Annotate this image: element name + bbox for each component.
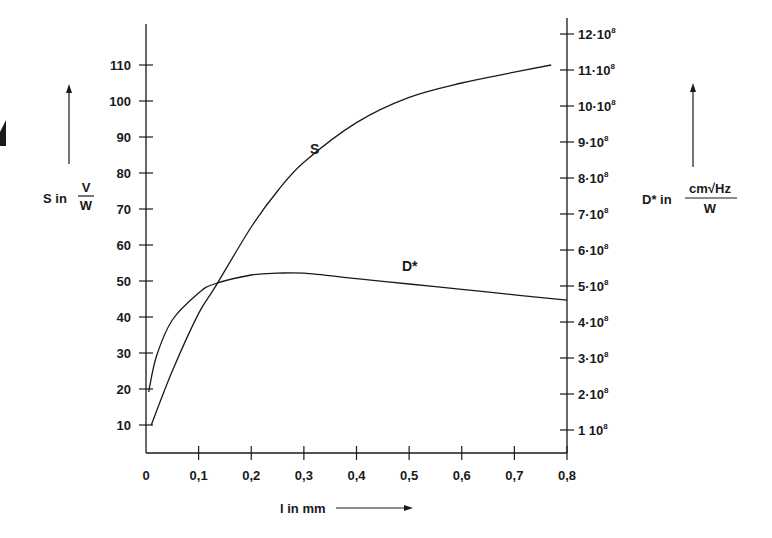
left-tick-label: 70 bbox=[117, 202, 131, 217]
s-unit-numerator: V bbox=[82, 180, 91, 195]
right-tick-label: 9·108 bbox=[578, 134, 609, 150]
x-tick-label: 0,2 bbox=[242, 468, 260, 483]
right-tick-label: 5·108 bbox=[578, 278, 609, 294]
x-tick-label: 0,5 bbox=[400, 468, 418, 483]
right-tick-label: 2·108 bbox=[578, 386, 609, 402]
right-axis-label: D* in cm√Hz W bbox=[642, 83, 737, 216]
left-tick-label: 20 bbox=[117, 382, 131, 397]
scan-artifact bbox=[0, 120, 6, 146]
x-tick-label: 0,6 bbox=[453, 468, 471, 483]
curve-s bbox=[151, 65, 551, 425]
curves bbox=[149, 65, 567, 425]
left-axis-label: S in V W bbox=[43, 84, 94, 213]
curve-label-s: S bbox=[310, 141, 319, 157]
arrowhead-icon bbox=[690, 83, 696, 92]
x-axis-title: l in mm bbox=[280, 501, 326, 516]
arrowhead-icon bbox=[66, 84, 72, 93]
right-tick-label: 12·108 bbox=[578, 26, 616, 42]
right-tick-label: 3·108 bbox=[578, 350, 609, 366]
left-tick-label: 40 bbox=[117, 310, 131, 325]
left-tick-label: 100 bbox=[109, 94, 131, 109]
right-tick-label: 1 108 bbox=[578, 422, 608, 438]
x-tick-label: 0,3 bbox=[295, 468, 313, 483]
d-axis-prefix: D* in bbox=[642, 192, 672, 207]
x-tick-label: 0,1 bbox=[190, 468, 208, 483]
left-tick-label: 50 bbox=[117, 274, 131, 289]
right-tick-label: 7·108 bbox=[578, 206, 609, 222]
left-tick-label: 10 bbox=[117, 418, 131, 433]
right-tick-label: 11·108 bbox=[578, 62, 616, 78]
x-ticks: 00,10,20,30,40,50,60,70,8 bbox=[142, 446, 576, 483]
x-axis-label: l in mm bbox=[280, 501, 413, 516]
left-tick-label: 110 bbox=[110, 58, 131, 73]
x-tick-label: 0,7 bbox=[505, 468, 523, 483]
d-unit-numerator: cm√Hz bbox=[689, 181, 731, 196]
curve-label-dstar: D* bbox=[402, 258, 418, 274]
arrowhead-icon bbox=[404, 505, 413, 511]
x-tick-label: 0,4 bbox=[347, 468, 366, 483]
x-tick-label: 0 bbox=[142, 468, 149, 483]
left-tick-label: 30 bbox=[117, 346, 131, 361]
left-tick-label: 90 bbox=[117, 130, 131, 145]
right-tick-label: 10·108 bbox=[578, 98, 616, 114]
s-axis-prefix: S in bbox=[43, 191, 67, 206]
x-tick-label: 0,8 bbox=[558, 468, 576, 483]
right-tick-label: 4·108 bbox=[578, 314, 609, 330]
left-tick-label: 60 bbox=[117, 238, 131, 253]
dual-axis-line-chart: 102030405060708090100110 1 1082·1083·108… bbox=[0, 0, 772, 538]
right-y-ticks: 1 1082·1083·1084·1085·1086·1087·1088·108… bbox=[560, 26, 616, 438]
s-unit-denominator: W bbox=[80, 198, 93, 213]
right-tick-label: 8·108 bbox=[578, 170, 609, 186]
right-tick-label: 6·108 bbox=[578, 242, 609, 258]
left-tick-label: 80 bbox=[117, 166, 131, 181]
d-unit-denominator: W bbox=[704, 201, 717, 216]
axes bbox=[146, 18, 567, 453]
curve-dstar bbox=[149, 273, 567, 392]
